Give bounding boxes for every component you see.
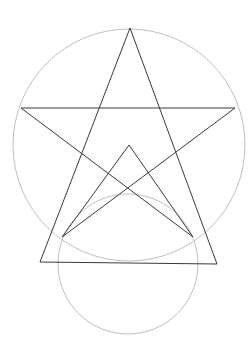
diagram-canvas [0, 0, 251, 349]
big-triangle-base [40, 262, 217, 264]
star-line-left-to-bottom-right [21, 108, 193, 237]
small-triangle-left-side [62, 145, 129, 237]
star-line-top-to-bottom-right [130, 28, 217, 264]
small-triangle-right-side [129, 145, 193, 237]
star-line-top-to-bottom-left [40, 28, 130, 262]
geometry-figure [0, 0, 251, 349]
